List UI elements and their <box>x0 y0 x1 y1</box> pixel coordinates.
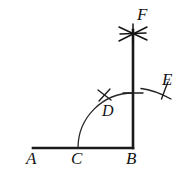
point-label-e: E <box>162 71 172 88</box>
point-label-d: D <box>102 103 114 119</box>
point-label-b: B <box>126 150 136 167</box>
geometry-figure: A C B D E F <box>0 0 184 181</box>
point-label-f: F <box>137 6 147 23</box>
point-label-a: A <box>26 150 36 167</box>
tick-arc-at-e <box>141 89 171 100</box>
point-label-c: C <box>71 150 82 167</box>
